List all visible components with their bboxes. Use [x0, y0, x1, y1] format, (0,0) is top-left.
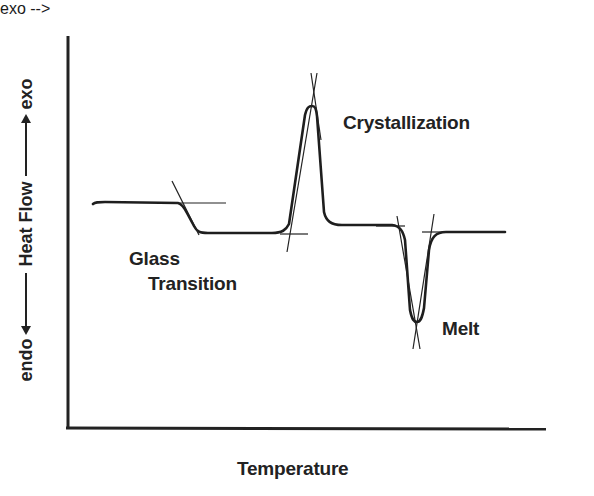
dsc-plot-area	[0, 0, 594, 496]
dsc-thermogram-figure: exo --> endo Heat Flow exo Crystallizati…	[0, 0, 594, 496]
x-axis-title: Temperature	[237, 458, 349, 480]
melt-label: Melt	[442, 318, 479, 340]
glass-transition-label-line1: Glass	[129, 248, 180, 270]
x-axis-line	[66, 428, 546, 429]
crystallization-label: Crystallization	[343, 112, 470, 134]
melt-trailing-tangent	[413, 214, 434, 349]
glass-transition-label-line2: Transition	[148, 273, 237, 295]
glass-inflection-tangent	[172, 181, 199, 235]
crystallization-leading-tangent	[287, 73, 317, 252]
